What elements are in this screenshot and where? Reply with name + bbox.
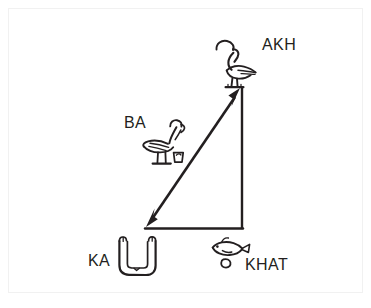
node-label-ba: BA — [124, 114, 146, 132]
ba-bird-hieroglyph — [143, 120, 184, 163]
node-label-khat: KHAT — [245, 256, 288, 274]
node-label-akh: AKH — [262, 36, 296, 54]
diagram-artwork — [0, 0, 371, 308]
upraised-arms-hieroglyph — [119, 237, 155, 275]
edge-hypotenuse-double-arrow — [146, 88, 240, 227]
figure-canvas: AKH BA KA KHAT — [0, 0, 371, 308]
node-label-ka: KA — [88, 252, 110, 270]
crested-ibis-hieroglyph — [216, 41, 255, 87]
